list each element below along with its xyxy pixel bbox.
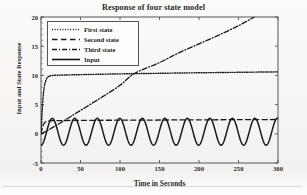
legend-swatch-dashed-icon	[51, 35, 81, 44]
chart-figure: Response of four state model Input and S…	[0, 0, 307, 195]
legend-label: Second state	[84, 35, 119, 44]
legend-swatch-dashdot-icon	[51, 45, 81, 54]
legend-label: First state	[84, 25, 112, 34]
legend-item-second-state: Second state	[51, 34, 135, 44]
legend-label: Input	[84, 55, 100, 64]
legend-label: Third state	[84, 45, 115, 54]
legend-swatch-dotted-icon	[51, 25, 81, 34]
chart-legend: First state Second state Third state Inp…	[47, 21, 139, 66]
legend-item-input: Input	[51, 54, 135, 64]
legend-item-first-state: First state	[51, 24, 135, 34]
legend-item-third-state: Third state	[51, 44, 135, 54]
legend-swatch-solid-icon	[51, 55, 81, 64]
